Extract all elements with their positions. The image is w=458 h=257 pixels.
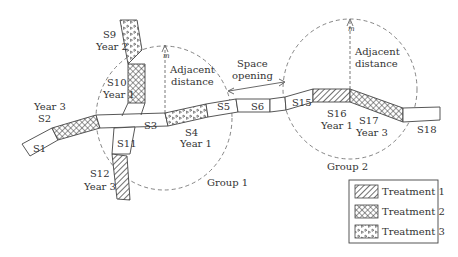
segment-s16 bbox=[313, 89, 350, 102]
label-adjacent-distance-2-l2: distance bbox=[355, 58, 398, 69]
legend-swatch-treatment2 bbox=[355, 205, 378, 218]
label-s17: S17 bbox=[359, 115, 379, 126]
space-opening-arrow bbox=[228, 79, 285, 94]
label-s9-year: Year 2 bbox=[95, 41, 128, 52]
legend-swatch-treatment3 bbox=[355, 225, 378, 238]
segment-s2 bbox=[52, 115, 100, 140]
label-s2-year: Year 3 bbox=[33, 101, 66, 112]
road-treatment-diagram: S1 Year 3 S2 S3 S4 Year 1 S5 S6 S9 Year … bbox=[0, 0, 458, 257]
label-adjacent-distance-1-l1: Adjacent bbox=[169, 64, 215, 75]
label-s10-year: Year 1 bbox=[102, 89, 135, 100]
label-s6: S6 bbox=[251, 101, 264, 112]
label-group2: Group 2 bbox=[327, 161, 368, 172]
label-space-opening-l1: Space bbox=[237, 58, 268, 69]
label-s4-year: Year 1 bbox=[179, 138, 212, 149]
label-s3: S3 bbox=[144, 120, 157, 131]
label-m-1: m bbox=[163, 52, 170, 60]
label-s15: S15 bbox=[292, 97, 312, 108]
legend-label-treatment1: Treatment 1 bbox=[382, 186, 445, 197]
label-s12-year: Year 3 bbox=[83, 181, 116, 192]
label-s18: S18 bbox=[417, 124, 437, 135]
label-s12: S12 bbox=[90, 168, 110, 179]
label-adjacent-distance-2-l1: Adjacent bbox=[354, 46, 400, 57]
label-group1: Group 1 bbox=[207, 177, 248, 188]
label-adjacent-distance-1-l2: distance bbox=[171, 76, 214, 87]
segment-s12 bbox=[112, 154, 130, 200]
legend-label-treatment3: Treatment 3 bbox=[382, 226, 445, 237]
legend: Treatment 1 Treatment 2 Treatment 3 bbox=[349, 180, 445, 243]
north-branch bbox=[120, 20, 145, 116]
label-space-opening-l2: opening bbox=[232, 70, 273, 81]
label-s4: S4 bbox=[185, 127, 198, 138]
segment-s18 bbox=[403, 107, 440, 122]
label-s17-year: Year 3 bbox=[355, 127, 388, 138]
label-s10: S10 bbox=[107, 77, 127, 88]
label-m-2: m bbox=[348, 25, 355, 33]
label-s16: S16 bbox=[327, 108, 347, 119]
label-s11: S11 bbox=[117, 138, 137, 149]
label-s2: S2 bbox=[38, 113, 51, 124]
label-s16-year: Year 1 bbox=[320, 120, 353, 131]
segment-s4 bbox=[165, 104, 208, 126]
legend-swatch-treatment1 bbox=[355, 185, 378, 198]
label-s1: S1 bbox=[33, 143, 46, 154]
label-s5: S5 bbox=[217, 101, 230, 112]
legend-label-treatment2: Treatment 2 bbox=[382, 206, 445, 217]
label-s9: S9 bbox=[103, 29, 116, 40]
